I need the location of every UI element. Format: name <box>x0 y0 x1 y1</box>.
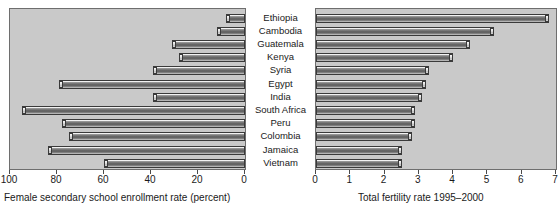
bar-row <box>316 25 556 38</box>
country-label: Jamaica <box>246 143 315 156</box>
country-label-column: EthiopiaCambodiaGuatemalaKenyaSyriaEgypt… <box>246 8 315 170</box>
country-label: Peru <box>246 116 315 129</box>
country-label: Ethiopia <box>246 11 315 24</box>
bar-row <box>10 117 245 130</box>
bar-egypt <box>316 80 426 89</box>
bar-row <box>316 51 556 64</box>
bar-row <box>10 91 245 104</box>
bar-egypt <box>59 80 245 89</box>
bar-end-cap <box>418 94 422 101</box>
bar-jamaica <box>48 146 245 155</box>
bar-end-cap <box>490 28 494 35</box>
bar-row <box>10 104 245 117</box>
left-axis-title: Female secondary school enrollment rate … <box>4 192 230 203</box>
bar-end-cap <box>179 54 183 61</box>
bar-guatemala <box>172 40 245 49</box>
bar-ethiopia <box>226 14 245 23</box>
bar-row <box>10 51 245 64</box>
axis-tick-label: 5 <box>484 174 490 185</box>
axis-tick-label: 100 <box>1 174 18 185</box>
country-label: India <box>246 90 315 103</box>
bar-row <box>10 130 245 143</box>
axis-tick-label: 7 <box>552 174 558 185</box>
bar-end-cap <box>398 160 402 167</box>
bar-row <box>316 130 556 143</box>
bar-jamaica <box>316 146 402 155</box>
bar-end-cap <box>172 41 176 48</box>
bar-ethiopia <box>316 14 549 23</box>
axis-tick-label: 6 <box>518 174 524 185</box>
right-axis-title: Total fertility rate 1995–2000 <box>358 192 484 203</box>
bar-row <box>10 157 245 170</box>
bar-syria <box>153 66 245 75</box>
bar-south-africa <box>316 106 415 115</box>
axis-tick-label: 0 <box>312 174 318 185</box>
right-chart-panel <box>315 8 557 170</box>
bar-row <box>316 104 556 117</box>
bar-peru <box>316 119 415 128</box>
bar-row <box>316 78 556 91</box>
bar-syria <box>316 66 429 75</box>
bar-row <box>10 64 245 77</box>
bar-end-cap <box>217 28 221 35</box>
bar-row <box>10 78 245 91</box>
right-bar-rows <box>316 9 556 169</box>
left-chart-panel <box>9 8 246 170</box>
axis-tick-label: 2 <box>381 174 387 185</box>
bar-row <box>316 91 556 104</box>
bar-row <box>316 12 556 25</box>
bar-end-cap <box>22 107 26 114</box>
bar-row <box>316 157 556 170</box>
country-label: Syria <box>246 63 315 76</box>
bar-end-cap <box>62 120 66 127</box>
bar-colombia <box>316 132 412 141</box>
axis-tick-label: 3 <box>415 174 421 185</box>
bar-vietnam <box>104 159 245 168</box>
bar-end-cap <box>48 147 52 154</box>
bar-colombia <box>69 132 245 141</box>
bar-row <box>10 25 245 38</box>
bar-kenya <box>316 53 453 62</box>
bar-end-cap <box>466 41 470 48</box>
bar-end-cap <box>425 67 429 74</box>
left-bar-rows <box>10 9 245 169</box>
bar-guatemala <box>316 40 470 49</box>
bar-india <box>153 93 245 102</box>
bar-peru <box>62 119 245 128</box>
bar-row <box>316 117 556 130</box>
bar-vietnam <box>316 159 402 168</box>
bar-india <box>316 93 422 102</box>
bar-row <box>316 64 556 77</box>
bar-end-cap <box>59 81 63 88</box>
country-label: South Africa <box>246 103 315 116</box>
bar-row <box>316 38 556 51</box>
bar-south-africa <box>22 106 245 115</box>
bar-row <box>316 144 556 157</box>
right-x-axis: 01234567 <box>315 170 557 192</box>
bar-cambodia <box>217 27 245 36</box>
bar-kenya <box>179 53 245 62</box>
country-label: Cambodia <box>246 24 315 37</box>
bar-cambodia <box>316 27 494 36</box>
bar-end-cap <box>408 133 412 140</box>
bar-end-cap <box>411 107 415 114</box>
axis-tick-label: 20 <box>191 174 202 185</box>
axis-tick-label: 4 <box>449 174 455 185</box>
axis-tick-label: 80 <box>50 174 61 185</box>
country-label: Kenya <box>246 50 315 63</box>
paired-bar-chart: EthiopiaCambodiaGuatemalaKenyaSyriaEgypt… <box>0 0 560 215</box>
bar-row <box>10 144 245 157</box>
bar-end-cap <box>69 133 73 140</box>
bar-end-cap <box>153 94 157 101</box>
bar-row <box>10 38 245 51</box>
bar-end-cap <box>545 15 549 22</box>
axis-tick-label: 40 <box>144 174 155 185</box>
bar-row <box>10 12 245 25</box>
country-label: Colombia <box>246 129 315 142</box>
country-label: Vietnam <box>246 156 315 169</box>
bar-end-cap <box>411 120 415 127</box>
bar-end-cap <box>226 15 230 22</box>
bar-end-cap <box>104 160 108 167</box>
axis-tick-label: 60 <box>97 174 108 185</box>
bar-end-cap <box>422 81 426 88</box>
